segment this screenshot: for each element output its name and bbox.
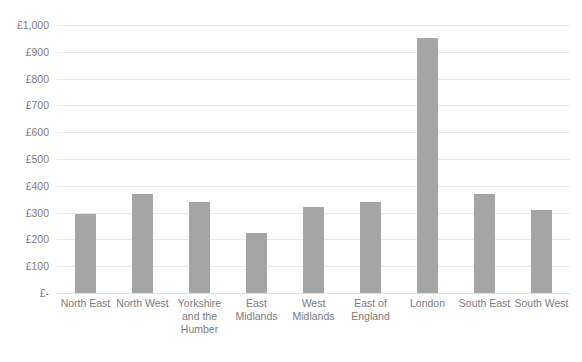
x-axis-category-label: London <box>399 297 456 310</box>
x-axis-category-label: North East <box>57 297 114 310</box>
y-axis-tick-label: £- <box>0 288 49 299</box>
x-axis-category-label: Yorkshire and the Humber <box>171 297 228 336</box>
bar[interactable] <box>189 202 210 293</box>
x-axis-category-label: South East <box>456 297 513 310</box>
bar[interactable] <box>132 194 153 293</box>
bar[interactable] <box>246 233 267 293</box>
y-axis-tick-label: £300 <box>0 208 49 219</box>
y-axis-tick-label: £1,000 <box>0 20 49 31</box>
plot-area <box>57 25 570 293</box>
bar[interactable] <box>417 38 438 293</box>
x-axis-category-label: West Midlands <box>285 297 342 323</box>
bar[interactable] <box>303 207 324 293</box>
x-axis-category-label: South West <box>513 297 570 310</box>
x-axis-category-label: North West <box>114 297 171 310</box>
y-axis-tick-label: £800 <box>0 74 49 85</box>
y-axis-tick-label: £700 <box>0 100 49 111</box>
chart-title <box>0 0 582 2</box>
bar-chart: £1,000£900£800£700£600£500£400£300£200£1… <box>0 0 582 362</box>
x-axis-category-labels: North EastNorth WestYorkshire and the Hu… <box>57 297 570 359</box>
y-axis-tick-label: £900 <box>0 47 49 58</box>
bar[interactable] <box>75 214 96 293</box>
bar[interactable] <box>360 202 381 293</box>
y-axis-tick-label: £500 <box>0 154 49 165</box>
gridline <box>57 293 570 294</box>
bar[interactable] <box>531 210 552 293</box>
y-axis-tick-label: £200 <box>0 234 49 245</box>
y-axis-tick-label: £100 <box>0 261 49 272</box>
x-axis-category-label: East Midlands <box>228 297 285 323</box>
x-axis-category-label: East of England <box>342 297 399 323</box>
y-axis-tick-label: £600 <box>0 127 49 138</box>
bar[interactable] <box>474 194 495 293</box>
y-axis-tick-label: £400 <box>0 181 49 192</box>
